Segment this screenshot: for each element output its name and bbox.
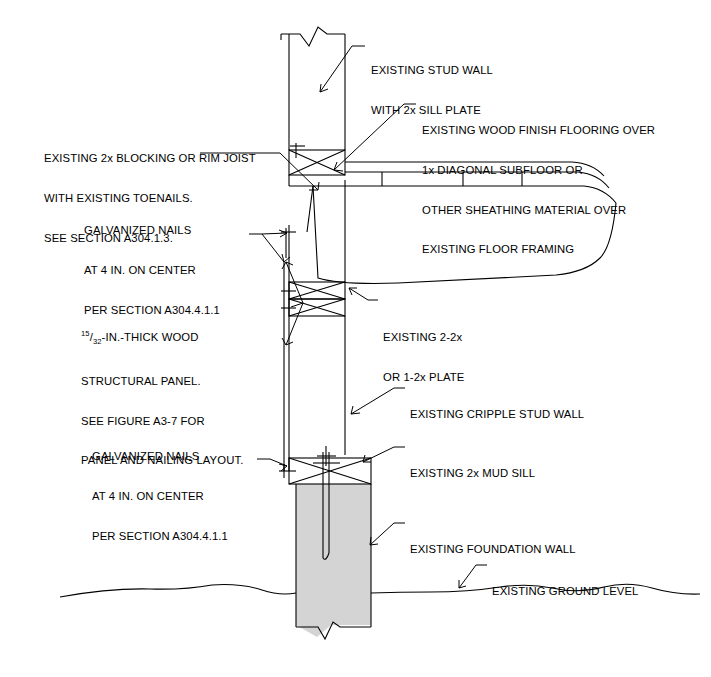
label-existing-cripple-stud-wall: EXISTING CRIPPLE STUD WALL [410, 382, 584, 435]
label-line: GALVANIZED NAILS [84, 224, 220, 237]
label-line: EXISTING 2-2x [383, 331, 464, 344]
label-line: EXISTING FLOOR FRAMING [422, 243, 655, 256]
label-line: AT 4 IN. ON CENTER [84, 264, 220, 277]
label-line: STRUCTURAL PANEL. [81, 375, 243, 388]
label-line-with-fraction: 15/32-IN.-THICK WOOD [81, 327, 243, 348]
label-line: PER SECTION A304.4.1.1 [92, 530, 228, 543]
label-line: -IN.-THICK WOOD [102, 331, 199, 343]
existing-stud-wall [281, 27, 345, 150]
label-galvanized-nails-lower: GALVANIZED NAILS AT 4 IN. ON CENTER PER … [92, 424, 228, 556]
label-line: EXISTING 2x MUD SILL [410, 467, 535, 480]
upper-nailing-detail [281, 225, 296, 262]
existing-mud-sill [279, 458, 371, 484]
label-line: 1x DIAGONAL SUBFLOOR OR [422, 164, 655, 177]
label-line: EXISTING GROUND LEVEL [492, 585, 638, 598]
foundation-wall [296, 484, 371, 639]
label-line: AT 4 IN. ON CENTER [92, 490, 228, 503]
label-existing-mud-sill: EXISTING 2x MUD SILL [410, 441, 535, 494]
label-line: EXISTING 2x BLOCKING OR RIM JOIST [44, 152, 256, 165]
label-line: OTHER SHEATHING MATERIAL OVER [422, 204, 655, 217]
existing-plate [281, 282, 345, 316]
diagram-canvas: EXISTING STUD WALL WITH 2x SILL PLATE EX… [0, 0, 711, 677]
label-line: EXISTING WOOD FINISH FLOORING OVER [422, 124, 655, 137]
label-line: EXISTING CRIPPLE STUD WALL [410, 408, 584, 421]
label-line: EXISTING STUD WALL [371, 64, 493, 77]
fraction-denominator: 32 [93, 337, 102, 346]
label-existing-wood-finish-flooring: EXISTING WOOD FINISH FLOORING OVER 1x DI… [422, 98, 655, 270]
fraction-numerator: 15 [81, 329, 90, 338]
label-line: EXISTING FOUNDATION WALL [410, 543, 576, 556]
label-line: GALVANIZED NAILS [92, 450, 228, 463]
label-existing-ground-level: EXISTING GROUND LEVEL [492, 559, 638, 612]
